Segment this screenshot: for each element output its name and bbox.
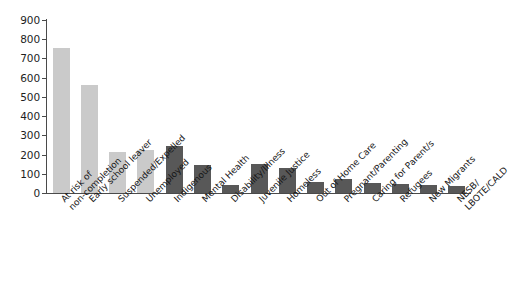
y-axis-tick-label: 100: [0, 169, 40, 179]
y-axis-tick-value: 700: [2, 53, 40, 63]
y-axis-tick-value: 400: [2, 111, 40, 121]
y-axis-tick-mark: [42, 20, 47, 21]
y-axis-tick-label: 300: [0, 130, 40, 140]
y-axis-tick-mark: [42, 116, 47, 117]
y-axis-tick-value: 300: [2, 130, 40, 140]
y-axis-tick-label: 400: [0, 111, 40, 121]
y-axis-tick-label: 500: [0, 92, 40, 102]
y-axis-tick-label: 700: [0, 53, 40, 63]
x-axis-labels: At risk of non-completionEarly school le…: [0, 193, 481, 287]
y-axis-tick-mark: [42, 193, 47, 194]
y-axis-tick-mark: [42, 78, 47, 79]
y-axis-tick-value: 200: [2, 150, 40, 160]
y-axis-tick-value: 600: [2, 73, 40, 83]
y-axis-tick-label: 600: [0, 73, 40, 83]
y-axis-tick-value: 500: [2, 92, 40, 102]
y-axis-tick-mark: [42, 174, 47, 175]
bar: [53, 48, 70, 193]
y-axis-tick-value: 900: [2, 15, 40, 25]
y-axis-tick-value: 100: [2, 169, 40, 179]
y-axis-tick-label: 200: [0, 150, 40, 160]
y-axis-tick-mark: [42, 135, 47, 136]
y-axis-tick-label: 800: [0, 34, 40, 44]
y-axis-tick-mark: [42, 97, 47, 98]
y-axis-tick-mark: [42, 155, 47, 156]
y-axis-tick-mark: [42, 58, 47, 59]
y-axis-tick-label: 900: [0, 15, 40, 25]
y-axis-tick-mark: [42, 39, 47, 40]
y-axis-tick-value: 800: [2, 34, 40, 44]
